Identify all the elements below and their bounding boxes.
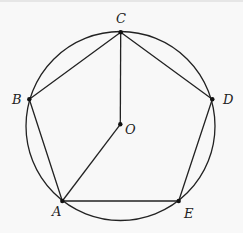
segment-oa <box>62 124 120 201</box>
center-o-dot <box>118 122 122 126</box>
vertex-b-dot <box>27 97 31 101</box>
vertex-c-dot <box>119 30 123 34</box>
vertex-d-dot <box>210 97 214 101</box>
label-a: A <box>51 204 61 219</box>
label-b: B <box>11 92 22 107</box>
diagram-svg: C B D O A E <box>0 0 243 233</box>
label-d: D <box>222 92 234 107</box>
label-o: O <box>125 122 136 137</box>
pentagon-diagram: C B D O A E <box>0 0 243 233</box>
label-c: C <box>116 11 126 26</box>
label-e: E <box>183 206 194 221</box>
vertex-a-dot <box>60 199 64 203</box>
vertex-e-dot <box>177 199 181 203</box>
